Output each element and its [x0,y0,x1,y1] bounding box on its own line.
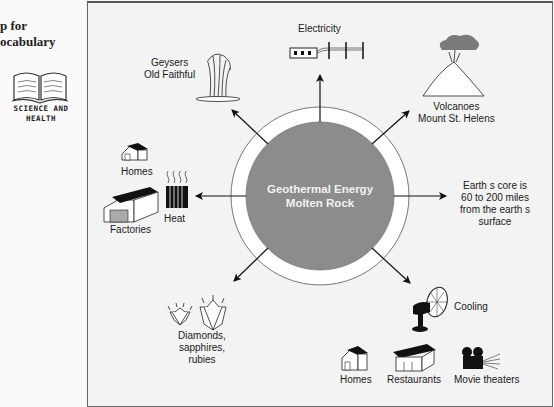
volcanoes-label: Volcanoes Mount St. Helens [418,101,495,125]
core-label: Geothermal Energy Molten Rock [252,182,388,210]
electricity-label: Electricity [298,23,341,35]
core-depth-label: Earth s core is 60 to 200 miles from the… [450,180,540,228]
radiator-icon [166,171,188,208]
cool-homes-label: Homes [340,374,372,386]
gems-label: Diamonds, sapphires, rubies [172,330,232,366]
restaurants-label: Restaurants [387,374,441,386]
cooling-label: Cooling [454,301,488,313]
restaurant-icon [393,344,436,371]
core-label-line1: Geothermal Energy [252,182,388,196]
factories-label: Factories [110,224,151,236]
gem-icon [168,295,226,330]
power-lines-icon [290,42,363,59]
heat-label: Heat [164,213,185,225]
house-icon [342,346,368,370]
volcano-icon [423,35,484,96]
heat-homes-label: Homes [121,166,153,178]
factory-icon [104,187,158,222]
geysers-label: Geysers Old Faithful [144,57,195,81]
core-label-line2: Molten Rock [252,196,388,210]
fan-icon [412,285,451,332]
movie-theaters-label: Movie theaters [454,374,520,386]
geyser-icon [196,54,240,102]
house-icon [122,143,148,160]
movie-projector-icon [462,347,500,369]
